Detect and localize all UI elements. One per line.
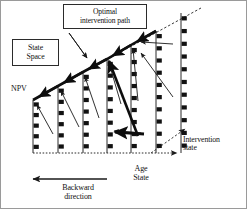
path-direction-arrow xyxy=(39,86,58,97)
state-marker xyxy=(157,34,162,38)
state-marker xyxy=(182,105,187,109)
state-marker xyxy=(132,144,137,148)
state-marker xyxy=(157,119,162,123)
state-marker xyxy=(84,133,89,137)
state-marker xyxy=(59,122,64,126)
path-direction-arrow xyxy=(89,59,107,69)
state-marker xyxy=(84,98,89,102)
emphasis-arrows xyxy=(109,61,144,136)
state-columns xyxy=(33,13,187,153)
state-marker xyxy=(108,144,113,148)
state-marker xyxy=(182,80,187,84)
state-marker xyxy=(59,111,64,115)
state-marker xyxy=(132,48,137,52)
state-marker xyxy=(182,42,187,46)
intervention-arrow xyxy=(141,42,173,44)
state-marker xyxy=(182,93,187,97)
state-marker xyxy=(182,54,187,58)
state-marker xyxy=(59,144,64,148)
backward-direction-label: Backward direction xyxy=(31,184,125,201)
state-marker xyxy=(108,121,113,125)
intervention-arrow xyxy=(37,105,53,134)
state-marker xyxy=(132,72,137,76)
intervention-state-axis-label: Intervention state xyxy=(183,136,241,153)
age-state-axis-label: Age State xyxy=(119,165,163,182)
state-marker xyxy=(157,71,162,75)
state-marker xyxy=(157,144,162,148)
state-marker xyxy=(182,118,187,122)
state-marker xyxy=(108,132,113,136)
state-marker xyxy=(84,144,89,148)
state-marker xyxy=(84,75,89,79)
state-marker xyxy=(157,107,162,111)
state-marker xyxy=(34,124,39,128)
state-marker xyxy=(84,121,89,125)
state-marker xyxy=(84,109,89,113)
state-marker xyxy=(108,85,113,89)
state-marker xyxy=(157,132,162,136)
state-marker xyxy=(34,134,39,138)
optimal-intervention-path-label: Optimal intervention path xyxy=(80,8,130,24)
intervention-arrow xyxy=(61,91,79,127)
path-direction-arrow xyxy=(64,72,83,83)
state-marker xyxy=(108,97,113,101)
state-marker xyxy=(59,133,64,137)
state-marker xyxy=(132,96,137,100)
state-marker xyxy=(182,29,187,33)
optimal-intervention-path-box: Optimal intervention path xyxy=(63,4,147,29)
figure-container: Optimal intervention path State Space NP… xyxy=(0,0,247,209)
npv-axis-label: NPV xyxy=(11,85,41,94)
state-marker xyxy=(182,16,187,20)
state-marker xyxy=(157,83,162,87)
state-marker xyxy=(108,109,113,113)
optimal-box-leader xyxy=(69,33,87,58)
state-marker xyxy=(157,95,162,99)
state-marker xyxy=(157,58,162,62)
path-direction-arrow xyxy=(113,45,131,56)
path-direction-arrow xyxy=(137,31,156,42)
state-marker xyxy=(34,113,39,117)
state-marker xyxy=(132,108,137,112)
state-marker xyxy=(59,100,64,104)
state-marker xyxy=(34,145,39,149)
state-marker xyxy=(182,67,187,71)
state-space-box: State Space xyxy=(12,39,59,66)
state-marker xyxy=(157,46,162,50)
state-space-label: State Space xyxy=(26,44,44,61)
